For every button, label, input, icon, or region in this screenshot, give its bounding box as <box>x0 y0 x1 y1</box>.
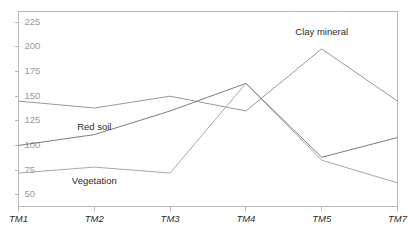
x-tick-label: TM3 <box>161 213 181 224</box>
x-tick-label: TM7 <box>388 213 408 224</box>
x-tick-label: TM5 <box>312 213 332 224</box>
series-lines <box>19 49 398 183</box>
y-tick-label: 150 <box>25 90 41 101</box>
series-line-red-soil <box>19 83 398 157</box>
series-line-clay-mineral <box>19 49 398 111</box>
series-line-vegetation <box>19 83 398 182</box>
chart-canvas: 2252001751501251007550 TM1TM2TM3TM4TM5TM… <box>0 0 419 240</box>
series-label-vegetation: Vegetation <box>72 175 117 186</box>
series-label-clay-mineral: Clay mineral <box>295 26 348 37</box>
y-tick-label: 50 <box>25 188 36 199</box>
x-axis-ticks: TM1TM2TM3TM4TM5TM7 <box>9 207 408 225</box>
x-tick-label: TM4 <box>236 213 255 224</box>
series-label-red-soil: Red soil <box>77 121 111 132</box>
y-tick-label: 75 <box>25 164 36 175</box>
y-tick-label: 200 <box>25 40 41 51</box>
series-labels: Clay mineralRed soilVegetation <box>72 26 348 187</box>
spectral-reflectance-chart: 2252001751501251007550 TM1TM2TM3TM4TM5TM… <box>0 0 419 240</box>
x-tick-label: TM2 <box>85 213 105 224</box>
y-tick-label: 125 <box>25 114 41 125</box>
x-tick-label: TM1 <box>9 213 28 224</box>
y-tick-label: 175 <box>25 65 41 76</box>
y-tick-label: 225 <box>25 16 41 27</box>
